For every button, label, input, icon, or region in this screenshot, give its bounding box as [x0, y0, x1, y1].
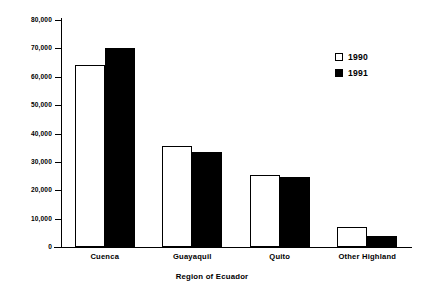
y-axis-tick-label: 70,000 [0, 44, 52, 52]
y-axis-tick-label: 40,000 [0, 130, 52, 138]
bar-guayaquil-1990 [162, 146, 192, 247]
x-axis-label-cuenca: Cuenca [61, 252, 149, 261]
legend-label-1991: 1991 [348, 68, 368, 78]
chart-legend: 1990 1991 [335, 50, 368, 82]
y-axis-tick-label-text: 60,000 [6, 73, 52, 80]
y-axis-tick-label: 30,000 [0, 158, 52, 166]
bar-other-highland-1990 [337, 227, 367, 247]
legend-swatch-hollow-square-icon [335, 53, 343, 61]
y-axis-tick-label: 0 [0, 243, 52, 251]
y-axis-tick-label-text: 80,000 [6, 16, 52, 23]
y-axis-tick-label-text: 10,000 [6, 215, 52, 222]
y-axis-tick-label: 20,000 [0, 186, 52, 194]
legend-swatch-filled-square-icon [335, 69, 343, 77]
x-axis-label-guayaquil: Guayaquil [149, 252, 237, 261]
legend-item-1991: 1991 [335, 66, 368, 80]
legend-item-1990: 1990 [335, 50, 368, 64]
bar-group [250, 20, 310, 247]
bar-quito-1990 [250, 175, 280, 247]
y-axis-tick-label-text: 70,000 [6, 44, 52, 51]
x-axis-title: Region of Ecuador [0, 272, 424, 281]
x-axis-label-other-highland: Other Highland [324, 252, 412, 261]
y-axis-tick-label: 80,000 [0, 16, 52, 24]
bar-cuenca-1991 [105, 48, 135, 247]
y-axis-tick [55, 247, 61, 248]
bar-quito-1991 [280, 177, 310, 247]
y-axis-tick-label: 10,000 [0, 215, 52, 223]
bar-chart: Number of Letters 010,00020,00030,00040,… [0, 0, 424, 292]
bar-guayaquil-1991 [192, 152, 222, 247]
x-axis-label-quito: Quito [236, 252, 324, 261]
y-axis-tick-label-text: 0 [6, 243, 52, 250]
y-axis-tick-label: 50,000 [0, 101, 52, 109]
bar-cuenca-1990 [75, 65, 105, 247]
y-axis-tick-label: 60,000 [0, 73, 52, 81]
y-axis-tick-label-text: 50,000 [6, 101, 52, 108]
legend-label-1990: 1990 [348, 52, 368, 62]
bar-group [75, 20, 135, 247]
bar-other-highland-1991 [367, 236, 397, 247]
bar-group [162, 20, 222, 247]
y-axis-tick-label-text: 30,000 [6, 158, 52, 165]
y-axis-tick-label-text: 20,000 [6, 186, 52, 193]
y-axis-tick-label-text: 40,000 [6, 130, 52, 137]
